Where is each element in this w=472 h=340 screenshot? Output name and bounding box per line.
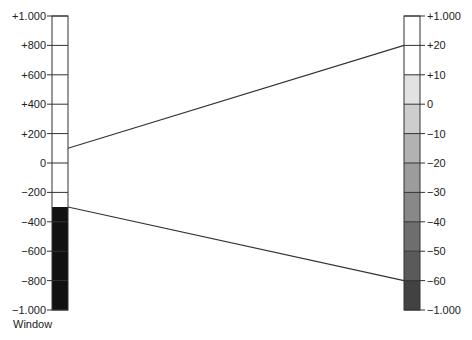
upper-connector-line xyxy=(68,45,404,148)
right-tick-label: −30 xyxy=(427,186,446,198)
left-tick-label: −200 xyxy=(0,186,46,198)
right-tick-label: −10 xyxy=(427,128,446,140)
right-tick-label: −50 xyxy=(427,245,446,257)
left-tick-label: 0 xyxy=(0,157,46,169)
right-scale-bar xyxy=(404,16,425,310)
left-tick-label: −600 xyxy=(0,245,46,257)
left-tick-label: +600 xyxy=(0,69,46,81)
left-tick-label: +1.000 xyxy=(0,10,46,22)
right-tick-label: −60 xyxy=(427,275,446,287)
right-tick-label: +20 xyxy=(427,39,446,51)
left-tick-label: +400 xyxy=(0,98,46,110)
right-tick-label: −40 xyxy=(427,216,446,228)
left-scale-caption: Window xyxy=(13,318,52,330)
right-tick-label: +10 xyxy=(427,69,446,81)
left-tick-label: +800 xyxy=(0,39,46,51)
left-tick-label: −400 xyxy=(0,216,46,228)
right-tick-label: −1.000 xyxy=(427,304,461,316)
left-tick-label: −800 xyxy=(0,275,46,287)
right-tick-label: 0 xyxy=(427,98,433,110)
window-mapping-diagram xyxy=(0,0,472,340)
below-window-fill xyxy=(52,207,68,310)
lower-connector-line xyxy=(68,207,404,281)
left-scale-bar xyxy=(47,16,68,310)
left-tick-label: −1.000 xyxy=(0,304,46,316)
left-tick-label: +200 xyxy=(0,128,46,140)
right-tick-label: −20 xyxy=(427,157,446,169)
right-tick-label: +1.000 xyxy=(427,10,461,22)
